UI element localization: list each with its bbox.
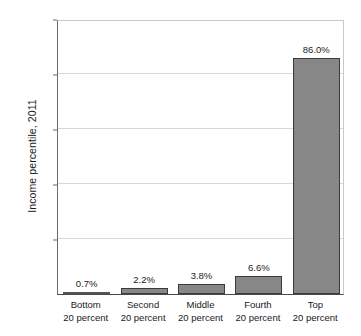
- x-axis-label: Top20 percent: [287, 299, 344, 324]
- x-axis-label-line1: Fourth: [229, 299, 286, 312]
- bar[interactable]: [178, 284, 225, 294]
- bar[interactable]: [293, 58, 340, 295]
- y-axis-title: Income percentile, 2011: [26, 56, 38, 256]
- bar-slot: 0.7%: [58, 21, 115, 294]
- bar-value-label: 0.7%: [58, 278, 115, 289]
- bar-value-label: 3.8%: [173, 270, 230, 281]
- bar-value-label: 86.0%: [288, 44, 345, 55]
- x-axis-label: Second20 percent: [114, 299, 171, 324]
- bars-layer: 0.7%2.2%3.8%6.6%86.0%: [58, 21, 343, 294]
- bar[interactable]: [121, 288, 168, 294]
- bar-chart: Income percentile, 2011 0.7%2.2%3.8%6.6%…: [0, 0, 361, 336]
- bar-value-label: 6.6%: [230, 262, 287, 273]
- y-tick-mark-100: [53, 20, 57, 21]
- y-tick-mark-80: [53, 75, 57, 76]
- x-axis-label-line2: 20 percent: [287, 312, 344, 325]
- bar-slot: 86.0%: [288, 21, 345, 294]
- bar-slot: 6.6%: [230, 21, 287, 294]
- plot-area: 0.7%2.2%3.8%6.6%86.0%: [57, 20, 344, 295]
- x-axis-label-line1: Middle: [172, 299, 229, 312]
- x-axis-label-line1: Bottom: [57, 299, 114, 312]
- x-axis-label-line1: Top: [287, 299, 344, 312]
- bar-value-label: 2.2%: [115, 274, 172, 285]
- x-axis-label: Bottom20 percent: [57, 299, 114, 324]
- x-axis-label-line2: 20 percent: [172, 312, 229, 325]
- y-tick-mark-20: [53, 240, 57, 241]
- x-axis-label-line2: 20 percent: [229, 312, 286, 325]
- x-axis-label-line2: 20 percent: [57, 312, 114, 325]
- x-axis-label: Middle20 percent: [172, 299, 229, 324]
- bar[interactable]: [235, 276, 282, 294]
- y-tick-mark-60: [53, 130, 57, 131]
- x-axis-label: Fourth20 percent: [229, 299, 286, 324]
- bar-slot: 2.2%: [115, 21, 172, 294]
- bar[interactable]: [63, 292, 110, 295]
- x-axis-label-line1: Second: [114, 299, 171, 312]
- y-tick-mark-40: [53, 185, 57, 186]
- x-axis-label-line2: 20 percent: [114, 312, 171, 325]
- x-axis-labels: Bottom20 percentSecond20 percentMiddle20…: [57, 299, 344, 335]
- bar-slot: 3.8%: [173, 21, 230, 294]
